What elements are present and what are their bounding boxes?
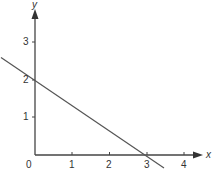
y-tick-label-3: 3 <box>23 37 29 47</box>
y-axis-label: y <box>32 0 37 10</box>
y-axis-arrow-icon <box>32 9 39 19</box>
x-axis-label: x <box>206 150 211 160</box>
graph-canvas <box>0 0 219 181</box>
origin-label: 0 <box>26 160 32 170</box>
y-tick-label-2: 2 <box>23 75 29 85</box>
x-tick-label-1: 1 <box>69 160 75 170</box>
y-tick-label-1: 1 <box>23 112 29 122</box>
line-graph: y x 0 1 2 3 1 2 3 4 <box>0 0 219 181</box>
x-tick-label-3: 3 <box>144 160 150 170</box>
x-tick-label-4: 4 <box>181 160 187 170</box>
x-axis-arrow-icon <box>193 152 203 159</box>
x-tick-label-2: 2 <box>106 160 112 170</box>
